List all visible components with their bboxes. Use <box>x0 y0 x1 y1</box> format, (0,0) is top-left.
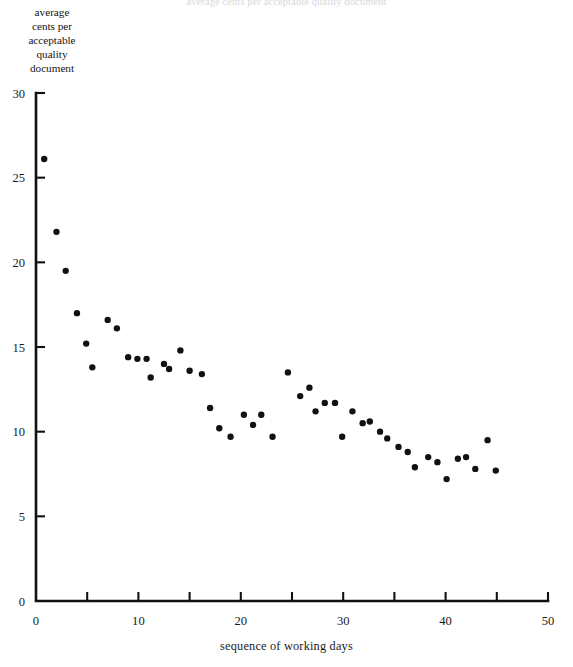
y-tick-label: 30 <box>12 87 25 101</box>
data-point <box>339 434 345 440</box>
data-point <box>377 428 383 434</box>
y-axis-tick-labels: 051015202530 <box>12 87 25 609</box>
data-point <box>227 434 233 440</box>
data-point <box>322 400 328 406</box>
x-axis-tick-labels: 01020304050 <box>33 614 554 628</box>
data-point <box>134 356 140 362</box>
data-point <box>412 464 418 470</box>
data-point <box>125 354 131 360</box>
data-point <box>443 476 449 482</box>
data-point <box>177 347 183 353</box>
data-point <box>161 361 167 367</box>
scatter-plot: 051015202530 01020304050 <box>0 0 573 667</box>
data-point <box>114 325 120 331</box>
data-point <box>484 437 490 443</box>
data-point <box>63 268 69 274</box>
data-point <box>285 369 291 375</box>
data-point <box>148 374 154 380</box>
data-point <box>312 408 318 414</box>
y-tick-label: 0 <box>19 595 25 609</box>
data-point <box>395 444 401 450</box>
x-tick-label: 10 <box>132 614 145 628</box>
y-tick-label: 25 <box>12 171 25 185</box>
data-point <box>241 412 247 418</box>
data-point <box>41 156 47 162</box>
data-points <box>41 156 499 482</box>
data-point <box>269 434 275 440</box>
x-tick-label: 20 <box>235 614 248 628</box>
data-point <box>359 420 365 426</box>
x-tick-label: 0 <box>33 614 39 628</box>
axes <box>36 93 548 601</box>
data-point <box>166 366 172 372</box>
data-point <box>83 340 89 346</box>
data-point <box>53 229 59 235</box>
y-tick-label: 5 <box>19 510 25 524</box>
x-axis-ticks <box>87 592 548 601</box>
data-point <box>216 425 222 431</box>
data-point <box>207 405 213 411</box>
data-point <box>434 459 440 465</box>
data-point <box>349 408 355 414</box>
x-tick-label: 40 <box>439 614 452 628</box>
data-point <box>89 364 95 370</box>
data-point <box>143 356 149 362</box>
x-axis-label: sequence of working days <box>0 639 573 654</box>
data-point <box>105 317 111 323</box>
data-point <box>463 454 469 460</box>
data-point <box>493 467 499 473</box>
data-point <box>258 412 264 418</box>
y-tick-label: 20 <box>12 256 25 270</box>
data-point <box>297 393 303 399</box>
axis-lines <box>36 93 548 601</box>
data-point <box>405 449 411 455</box>
data-point <box>425 454 431 460</box>
data-point <box>367 418 373 424</box>
data-point <box>332 400 338 406</box>
data-point <box>472 466 478 472</box>
y-tick-label: 15 <box>12 341 25 355</box>
x-tick-label: 50 <box>542 614 555 628</box>
x-tick-label: 30 <box>337 614 350 628</box>
y-tick-label: 10 <box>12 425 25 439</box>
data-point <box>250 422 256 428</box>
data-point <box>455 456 461 462</box>
data-point <box>74 310 80 316</box>
data-point <box>186 368 192 374</box>
data-point <box>199 371 205 377</box>
data-point <box>306 384 312 390</box>
data-point <box>384 435 390 441</box>
